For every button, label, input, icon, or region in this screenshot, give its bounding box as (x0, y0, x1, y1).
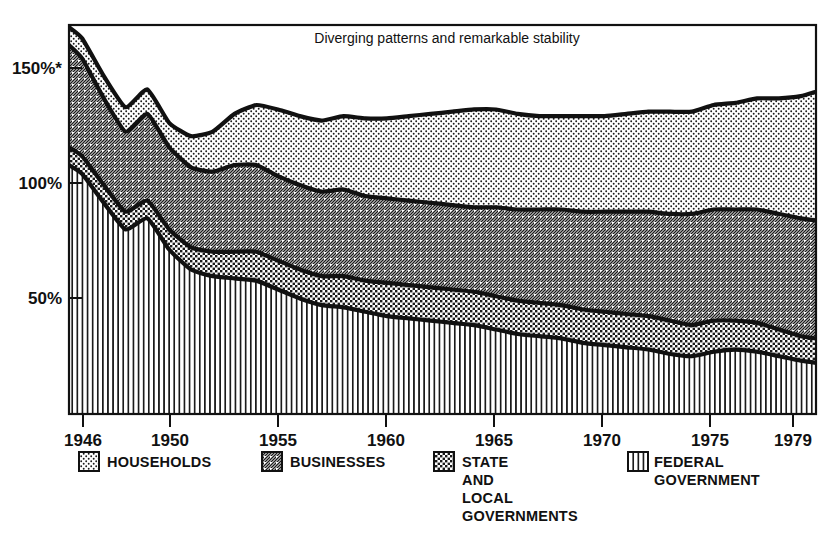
legend-label-businesses: BUSINESSES (290, 454, 386, 470)
x-axis-label-1946: 1946 (64, 431, 102, 450)
x-axis-label-1979: 1979 (774, 431, 812, 450)
legend-item-households[interactable]: HOUSEHOLDS (79, 452, 211, 471)
y-axis-label-100: 100% (19, 174, 62, 193)
x-axis-label-1955: 1955 (259, 431, 297, 450)
chart-legend: HOUSEHOLDS BUSINESSES STATE AND LOCAL GO… (79, 452, 760, 524)
coarse-dots-swatch-icon (434, 452, 454, 471)
x-axis-label-1950: 1950 (151, 431, 189, 450)
x-axis-label-1975: 1975 (691, 431, 729, 450)
legend-item-state-and-local-governments[interactable]: STATE AND LOCAL GOVERNMENTS (434, 452, 578, 524)
fine-dots-swatch-icon (79, 452, 99, 471)
x-axis-label-1960: 1960 (367, 431, 405, 450)
x-axis: 1946 1950 1955 1960 1965 1970 1975 1979 (64, 414, 812, 450)
chart-title: Diverging patterns and remarkable stabil… (314, 30, 579, 46)
legend-item-businesses[interactable]: BUSINESSES (262, 452, 386, 471)
legend-label-households: HOUSEHOLDS (107, 454, 211, 470)
legend-label-state-line4: GOVERNMENTS (462, 508, 578, 524)
legend-label-state-line3: LOCAL (462, 490, 513, 506)
legend-label-state-line2: AND (462, 472, 494, 488)
x-axis-label-1970: 1970 (583, 431, 621, 450)
legend-label-federal-line2: GOVERNMENT (654, 472, 760, 488)
legend-label-federal-line1: FEDERAL (654, 454, 724, 470)
legend-label-state-line1: STATE (462, 454, 509, 470)
vertical-lines-swatch-icon (628, 452, 648, 471)
y-axis-label-50: 50% (28, 289, 62, 308)
legend-item-federal-government[interactable]: FEDERAL GOVERNMENT (628, 452, 760, 488)
y-axis-label-150: 150%* (12, 59, 62, 78)
chart-figure: 150%* 100% 50% 1946 1950 1955 1960 1965 … (0, 0, 836, 543)
x-axis-label-1965: 1965 (475, 431, 513, 450)
stacked-area-chart: 150%* 100% 50% 1946 1950 1955 1960 1965 … (0, 0, 836, 543)
diagonal-hatch-swatch-icon (262, 452, 282, 471)
